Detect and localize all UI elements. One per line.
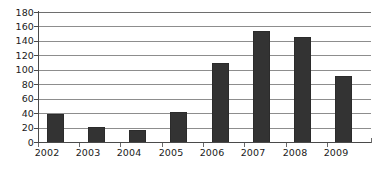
bar-2009 bbox=[335, 76, 352, 142]
bar-2005 bbox=[170, 112, 187, 142]
y-axis-tick-label: 120 bbox=[4, 51, 34, 61]
bar-2004 bbox=[129, 130, 146, 142]
y-axis-tick-label: 100 bbox=[4, 65, 34, 75]
plot-area bbox=[38, 12, 371, 142]
y-axis-tick-label: 20 bbox=[4, 123, 34, 133]
gridline-120 bbox=[38, 55, 371, 56]
gridline-60 bbox=[38, 99, 371, 100]
x-axis-tick-label-2008: 2008 bbox=[273, 148, 317, 158]
x-axis-end-tick bbox=[371, 138, 372, 143]
y-axis-tick-label: 60 bbox=[4, 94, 34, 104]
bar-2007 bbox=[253, 31, 270, 142]
y-axis-tick-label: 80 bbox=[4, 80, 34, 90]
gridline-80 bbox=[38, 84, 371, 85]
bar-2003 bbox=[88, 127, 105, 142]
axis-baseline bbox=[38, 142, 371, 143]
x-axis-tick-label-2007: 2007 bbox=[231, 148, 275, 158]
gridline-100 bbox=[38, 70, 371, 71]
gridline-140 bbox=[38, 41, 371, 42]
y-axis-tick-label: 0 bbox=[4, 138, 34, 148]
x-axis-tick-label-2004: 2004 bbox=[107, 148, 151, 158]
bar-2008 bbox=[294, 37, 311, 142]
y-axis-tick-label: 140 bbox=[4, 36, 34, 46]
y-axis-tick-label: 160 bbox=[4, 22, 34, 32]
bar-2002 bbox=[47, 114, 64, 142]
x-axis-tick-label-2006: 2006 bbox=[190, 148, 234, 158]
x-axis-tick-label-2003: 2003 bbox=[66, 148, 110, 158]
x-axis-tick-label-2002: 2002 bbox=[25, 148, 69, 158]
x-axis-tick-label-2009: 2009 bbox=[314, 148, 358, 158]
bar-2006 bbox=[212, 63, 229, 142]
gridline-180 bbox=[38, 12, 371, 13]
y-axis-tick-label: 40 bbox=[4, 109, 34, 119]
bar-chart: 180 160 140 120 100 80 60 40 20 0 bbox=[0, 0, 383, 173]
gridline-40 bbox=[38, 113, 371, 114]
gridline-160 bbox=[38, 26, 371, 27]
y-axis-tick-label: 180 bbox=[4, 8, 34, 18]
x-axis-tick-label-2005: 2005 bbox=[149, 148, 193, 158]
